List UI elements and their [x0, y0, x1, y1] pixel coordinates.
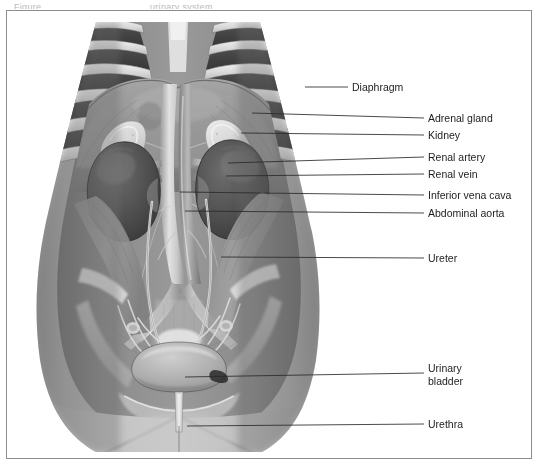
urinary-bladder-organ	[132, 342, 228, 392]
label-renal-vein: Renal vein	[428, 168, 478, 181]
label-ureter: Ureter	[428, 252, 457, 265]
figure-page: Figure urinary system	[0, 0, 540, 464]
label-urethra: Urethra	[428, 418, 463, 431]
label-adrenal-gland: Adrenal gland	[428, 112, 493, 125]
label-inferior-vena-cava: Inferior vena cava	[428, 189, 511, 202]
label-abdominal-aorta: Abdominal aorta	[428, 207, 504, 220]
label-urinary-bladder: Urinary bladder	[428, 362, 494, 387]
label-diaphragm: Diaphragm	[352, 81, 403, 94]
label-renal-artery: Renal artery	[428, 151, 485, 164]
label-kidney: Kidney	[428, 129, 460, 142]
anatomy-illustration	[0, 0, 540, 464]
